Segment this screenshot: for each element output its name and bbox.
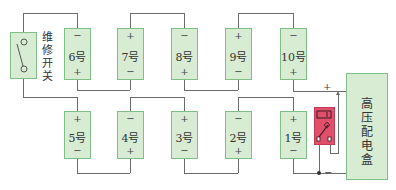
battery-label: 3号 — [172, 129, 197, 145]
terminal-top: − — [118, 114, 143, 124]
terminal-top: + — [281, 114, 306, 124]
wire — [184, 13, 185, 29]
battery-label: 8号 — [172, 48, 197, 64]
terminal-bottom: − — [281, 146, 306, 156]
terminal-bottom: + — [65, 67, 90, 77]
wire — [184, 80, 185, 90]
terminal-bottom: − — [118, 67, 143, 77]
wire — [184, 97, 185, 111]
battery-label: 2号 — [226, 129, 251, 145]
wire — [130, 80, 131, 90]
arrow-up-icon — [336, 91, 340, 95]
battery-label: 5号 — [65, 129, 90, 145]
terminal-bottom: + — [281, 67, 306, 77]
label-char: 电 — [361, 139, 373, 153]
label-char: 维 — [41, 31, 53, 44]
battery-8: − 8号 + — [171, 28, 198, 80]
battery-6: − 6号 + — [64, 28, 91, 80]
battery-2: − 2号 + — [225, 111, 252, 159]
probe-wire-positive — [330, 153, 338, 154]
terminal-bottom: − — [172, 146, 197, 156]
battery-label: 4号 — [118, 129, 143, 145]
wire — [238, 159, 239, 173]
wire — [23, 13, 77, 14]
terminal-top: + — [65, 114, 90, 124]
wire — [238, 97, 293, 98]
battery-label: 10号 — [281, 48, 306, 64]
wire — [130, 97, 184, 98]
label-char: 高 — [361, 97, 373, 111]
wire — [77, 90, 130, 91]
label-char: 配 — [361, 125, 373, 139]
battery-label: 7号 — [118, 48, 143, 64]
hv-box-label: 高 压 配 电 盒 — [361, 97, 373, 167]
negative-terminal-sign: − — [324, 168, 332, 178]
wire — [130, 97, 131, 111]
terminal-bottom: − — [226, 67, 251, 77]
wire — [77, 159, 78, 173]
wire — [77, 13, 78, 29]
terminal-top: + — [118, 31, 143, 41]
label-char: 关 — [41, 70, 53, 83]
wire — [130, 159, 131, 173]
battery-9: + 9号 − — [225, 28, 252, 80]
switch-icon — [10, 32, 37, 79]
wire — [77, 173, 130, 174]
probe-dot — [317, 171, 321, 175]
wire — [23, 13, 24, 33]
wire — [23, 97, 77, 98]
terminal-top: − — [65, 31, 90, 41]
label-char: 盒 — [361, 153, 373, 167]
battery-4: − 4号 + — [117, 111, 144, 159]
label-char: 压 — [361, 111, 373, 125]
wire — [130, 13, 131, 29]
terminal-top: + — [226, 31, 251, 41]
wire — [293, 97, 294, 111]
battery-7: + 7号 − — [117, 28, 144, 80]
wire — [130, 13, 184, 14]
terminal-top: − — [226, 114, 251, 124]
wire — [184, 173, 238, 174]
wire — [293, 159, 294, 173]
multimeter[interactable] — [314, 107, 335, 145]
wire — [238, 13, 293, 14]
probe-wire-negative — [319, 145, 320, 173]
probe-wire-positive — [338, 93, 339, 154]
battery-5: + 5号 − — [64, 111, 91, 159]
label-char: 开 — [41, 57, 53, 70]
wire — [77, 80, 78, 90]
switch-label: 维 修 开 关 — [41, 31, 53, 83]
wire — [238, 13, 239, 29]
multimeter-icon — [314, 107, 335, 145]
wire — [293, 13, 294, 29]
wire — [77, 97, 78, 111]
wire — [293, 80, 294, 91]
terminal-bottom: − — [65, 146, 90, 156]
terminal-bottom: + — [118, 146, 143, 156]
battery-10: − 10号 + — [280, 28, 307, 80]
maintenance-switch[interactable] — [10, 32, 37, 79]
terminal-top: − — [281, 31, 306, 41]
battery-3: + 3号 − — [171, 111, 198, 159]
wire — [184, 159, 185, 173]
hv-distribution-box: 高 压 配 电 盒 — [346, 73, 388, 180]
label-char: 修 — [41, 44, 53, 57]
probe-wire-positive — [330, 145, 331, 153]
wire — [23, 79, 24, 97]
battery-label: 1号 — [281, 129, 306, 145]
wire — [238, 97, 239, 111]
terminal-top: + — [172, 114, 197, 124]
terminal-top: − — [172, 31, 197, 41]
wire — [238, 80, 239, 90]
positive-terminal-sign: + — [323, 82, 331, 92]
battery-label: 6号 — [65, 48, 90, 64]
terminal-bottom: + — [172, 67, 197, 77]
battery-1: + 1号 − — [280, 111, 307, 159]
battery-label: 9号 — [226, 48, 251, 64]
terminal-bottom: + — [226, 146, 251, 156]
wire — [184, 90, 238, 91]
